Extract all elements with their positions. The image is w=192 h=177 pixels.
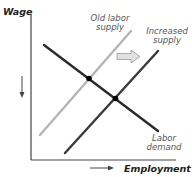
labor-demand-label: Labor demand <box>142 134 186 152</box>
old-labor-supply-curve <box>40 31 131 135</box>
y-axis-label: Wage <box>3 7 33 17</box>
labor-demand-curve <box>44 45 158 131</box>
employment-increase-arrow-icon <box>90 166 114 171</box>
labor-market-diagram: Wage Employment Old labor supply Increas… <box>0 0 192 177</box>
supply-shift-arrow-icon <box>117 50 140 63</box>
increased-supply-label: Increased supply <box>142 27 192 45</box>
x-axis-label: Employment <box>124 164 191 174</box>
old-supply-label: Old labor supply <box>80 14 140 32</box>
old-equilibrium-point <box>86 76 92 82</box>
new-equilibrium-point <box>113 96 119 102</box>
wage-decrease-arrow-icon <box>20 76 25 98</box>
